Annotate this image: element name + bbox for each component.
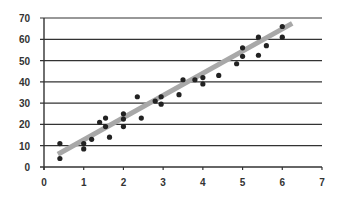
x-tick-label: 0 xyxy=(41,177,47,188)
y-axis-tick-labels: 010203040506070 xyxy=(19,13,31,173)
data-point xyxy=(153,98,158,103)
data-point xyxy=(159,102,164,107)
data-point xyxy=(81,141,86,146)
x-tick-label: 7 xyxy=(319,177,325,188)
y-tick-label: 70 xyxy=(19,13,31,24)
y-tick-label: 60 xyxy=(19,34,31,45)
data-point xyxy=(280,24,285,29)
data-point xyxy=(176,92,181,97)
y-tick-label: 10 xyxy=(19,141,31,152)
x-axis-tick-labels: 01234567 xyxy=(41,177,325,188)
data-point xyxy=(107,135,112,140)
x-tick-label: 1 xyxy=(81,177,87,188)
y-tick-label: 30 xyxy=(19,98,31,109)
y-tick-label: 0 xyxy=(24,162,30,173)
x-tick-label: 3 xyxy=(160,177,166,188)
data-point xyxy=(103,124,108,129)
data-point xyxy=(216,73,221,78)
data-point xyxy=(57,156,62,161)
x-tick-label: 4 xyxy=(200,177,206,188)
data-point xyxy=(280,35,285,40)
y-tick-label: 50 xyxy=(19,56,31,67)
data-point xyxy=(234,61,239,66)
x-tick-label: 2 xyxy=(121,177,127,188)
data-point xyxy=(264,43,269,48)
data-point xyxy=(103,115,108,120)
data-point xyxy=(89,137,94,142)
data-point xyxy=(192,77,197,82)
trend-line-path xyxy=(58,23,292,154)
scatter-chart: 010203040506070 01234567 xyxy=(0,0,344,210)
x-tick-label: 5 xyxy=(240,177,246,188)
y-tick-label: 40 xyxy=(19,77,31,88)
data-point xyxy=(240,45,245,50)
data-point xyxy=(256,53,261,58)
data-point xyxy=(240,54,245,59)
data-point xyxy=(256,35,261,40)
trend-line xyxy=(58,23,292,154)
data-point xyxy=(121,124,126,129)
data-point xyxy=(121,111,126,116)
data-point xyxy=(200,81,205,86)
data-point xyxy=(121,117,126,122)
data-point xyxy=(57,141,62,146)
x-tick-label: 6 xyxy=(280,177,286,188)
data-point xyxy=(135,94,140,99)
data-point xyxy=(159,94,164,99)
data-point xyxy=(139,115,144,120)
data-point xyxy=(180,77,185,82)
y-tick-label: 20 xyxy=(19,119,31,130)
data-point xyxy=(81,146,86,151)
data-point xyxy=(200,75,205,80)
data-point xyxy=(97,120,102,125)
